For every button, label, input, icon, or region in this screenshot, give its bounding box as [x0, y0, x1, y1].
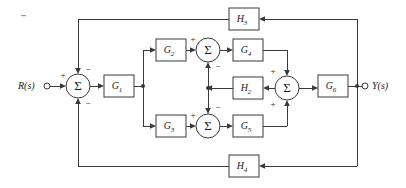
wire-sum4-to-g6	[299, 85, 318, 91]
wire-g3-to-sum3	[186, 123, 196, 129]
sum2-sign-input: +	[190, 34, 195, 44]
block-g6: G6	[318, 75, 348, 97]
block-diagram-figure: G1 G2 G3 G4 G5	[0, 0, 406, 188]
wire-g2-to-sum2	[186, 47, 196, 53]
summing-junction-4: Σ + +	[270, 66, 299, 109]
block-g3-subscript: 3	[170, 125, 175, 133]
sum4-sign-bottom: +	[270, 99, 275, 109]
wire-input-to-sum1	[50, 83, 66, 89]
sum4-sign-top: +	[270, 66, 275, 76]
wire-h2-split-down-to-sum3	[205, 88, 211, 114]
block-g2: G2	[156, 39, 186, 61]
wire-sum4-to-h2	[263, 85, 275, 91]
wire-h2-split-up-to-sum2	[205, 62, 211, 88]
block-g1-label: G	[112, 80, 119, 91]
block-g2-subscript: 2	[171, 49, 175, 57]
wire-sum2-to-g4	[220, 47, 233, 53]
sum3-sigma-symbol: Σ	[204, 118, 212, 133]
sum1-sign-input: +	[60, 70, 65, 80]
block-h4-subscript: 4	[244, 165, 248, 173]
block-g4-label: G	[241, 44, 248, 55]
wire-g4-to-sum4	[263, 50, 290, 76]
summing-junction-3: Σ + −	[190, 102, 220, 138]
block-g6-subscript: 6	[333, 85, 337, 93]
diagram-canvas: G1 G2 G3 G4 G5	[0, 0, 406, 188]
wire-sum1-to-g1	[90, 83, 104, 89]
block-g4: G4	[233, 39, 263, 61]
block-g4-subscript: 4	[248, 49, 252, 57]
block-h2-subscript: 2	[248, 87, 252, 95]
summing-junction-2: Σ + −	[190, 34, 220, 71]
scan-artifact-speck	[21, 15, 26, 16]
wire-h2-to-split	[206, 85, 233, 91]
sum3-sign-input: +	[190, 110, 195, 120]
sum2-sign-bottom: −	[215, 61, 220, 71]
junction-dot-output-tap	[355, 84, 359, 88]
block-g2-label: G	[164, 44, 171, 55]
block-g3-label: G	[164, 120, 171, 131]
block-g1-subscript: 1	[119, 85, 123, 93]
block-g1: G1	[104, 75, 134, 97]
output-terminal	[362, 83, 368, 89]
block-h3: H3	[229, 8, 259, 30]
input-signal-label: R(s)	[17, 80, 35, 92]
block-g5-label: G	[241, 120, 248, 131]
block-g6-label: G	[326, 80, 333, 91]
sum1-sigma-symbol: Σ	[74, 78, 82, 93]
wire-branch-up	[143, 47, 156, 86]
wire-g5-to-sum4	[263, 100, 290, 126]
input-terminal	[44, 83, 50, 89]
sum2-sigma-symbol: Σ	[204, 42, 212, 57]
block-h2: H2	[233, 77, 263, 99]
block-g5: G5	[233, 115, 263, 137]
sum1-sign-top: −	[85, 64, 90, 74]
block-g5-subscript: 5	[248, 125, 252, 133]
sum1-sign-bottom: −	[85, 98, 90, 108]
junction-dot-g1-branch	[141, 84, 145, 88]
output-signal-label: Y(s)	[372, 80, 389, 92]
wire-branch-down	[143, 86, 156, 129]
block-h4: H4	[229, 155, 259, 177]
block-h3-subscript: 3	[243, 18, 248, 26]
sum4-sigma-symbol: Σ	[283, 80, 291, 95]
wire-sum3-to-g5	[220, 123, 233, 129]
junction-dot-h2-split	[206, 86, 210, 90]
block-g3: G3	[156, 115, 186, 137]
sum3-sign-top: −	[215, 102, 220, 112]
